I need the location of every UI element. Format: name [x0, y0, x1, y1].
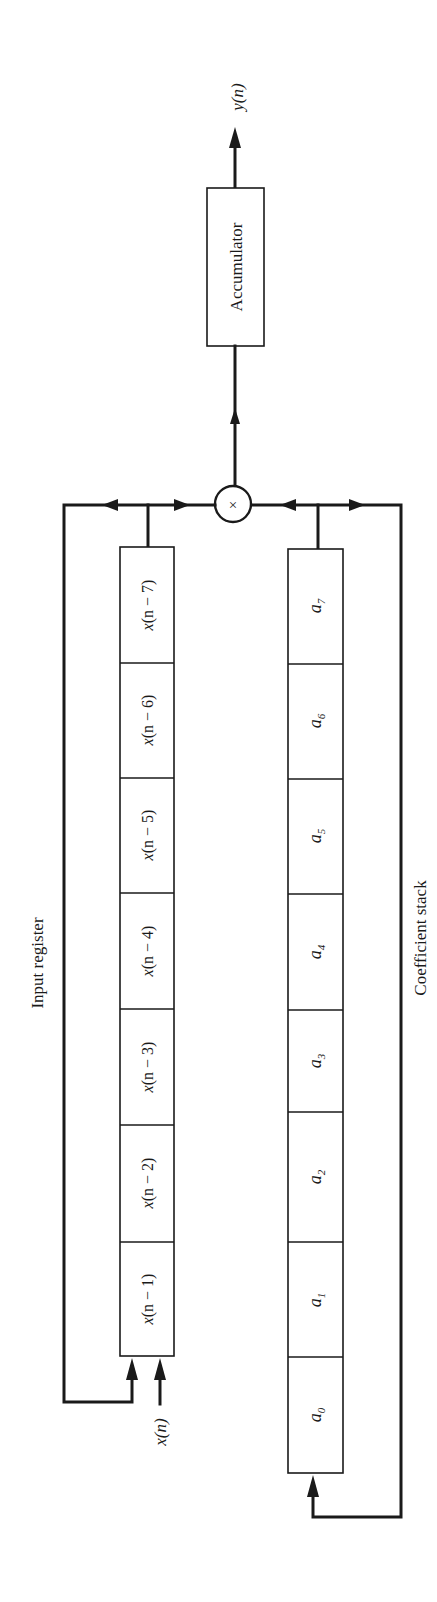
arrow-left-icon	[102, 499, 118, 511]
input-register-label: Input register	[28, 917, 47, 1008]
output-arrow	[229, 127, 241, 188]
multiplier-node: ×	[215, 486, 251, 522]
register-cell-n-4: x(n − 4)	[139, 926, 157, 978]
arrow-up-icon	[126, 1358, 138, 1380]
svg-text:y(n): y(n)	[228, 83, 247, 113]
arrow-up-icon	[229, 127, 241, 148]
svg-text:x(n − 6): x(n − 6)	[139, 695, 157, 747]
coefficient-stack-label: Coefficient stack	[411, 880, 430, 996]
svg-text:x(n): x(n)	[151, 1418, 170, 1447]
input-label: x(n)	[151, 1418, 170, 1447]
svg-text:x(n − 1): x(n − 1)	[139, 1274, 157, 1326]
register-cell-n-5: x(n − 5)	[139, 810, 157, 862]
output-label: y(n)	[228, 83, 247, 113]
register-cell-n-1: x(n − 1)	[139, 1274, 157, 1326]
svg-text:Coefficient stack: Coefficient stack	[411, 880, 430, 996]
svg-text:x(n − 5): x(n − 5)	[139, 810, 157, 862]
svg-text:x(n − 7): x(n − 7)	[139, 580, 157, 632]
multiplier-to-accumulator-line	[230, 346, 240, 486]
arrow-up-icon	[154, 1358, 166, 1380]
arrow-up-icon	[307, 1475, 319, 1497]
register-cell-n-6: x(n − 6)	[139, 695, 157, 747]
input-arrow	[154, 1358, 166, 1404]
multiply-icon: ×	[229, 497, 237, 513]
arrow-right-icon	[349, 499, 365, 511]
register-cell-n-3: x(n − 3)	[139, 1042, 157, 1094]
svg-text:x(n − 4): x(n − 4)	[139, 926, 157, 978]
arrow-left-icon	[280, 499, 296, 511]
svg-text:Input register: Input register	[28, 917, 47, 1008]
register-cell-n-7: x(n − 7)	[139, 580, 157, 632]
arrow-right-icon	[174, 499, 190, 511]
register-cell-n-2: x(n − 2)	[139, 1158, 157, 1210]
arrow-up-icon	[230, 408, 240, 424]
fir-filter-diagram: y(n) Accumulator × x(n)	[0, 0, 437, 1602]
coefficient-stack: a7 a6 a5 a4 a3 a2 a1 a0	[288, 549, 343, 1473]
accumulator-block: Accumulator	[207, 188, 264, 346]
svg-text:x(n − 3): x(n − 3)	[139, 1042, 157, 1094]
svg-text:x(n − 2): x(n − 2)	[139, 1158, 157, 1210]
accumulator-label: Accumulator	[227, 222, 246, 311]
input-register: x(n − 7) x(n − 6) x(n − 5) x(n − 4) x(n …	[120, 547, 174, 1356]
